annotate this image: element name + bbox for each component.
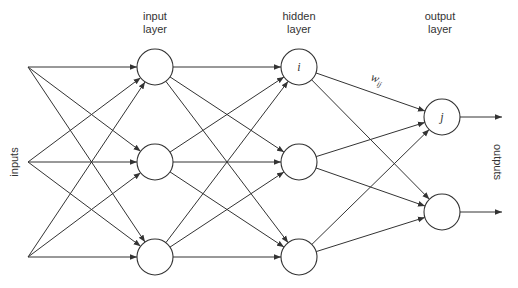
edge-source-to-input xyxy=(28,78,141,162)
hidden-node-i-label: i xyxy=(297,60,300,74)
connection-edges xyxy=(28,67,502,257)
hidden-layer-label: hidden layer xyxy=(282,10,315,35)
svg-text:layer: layer xyxy=(143,23,167,35)
neural-network-diagram: input layer hidden layer output layer in… xyxy=(0,0,518,288)
output-layer-label: output layer xyxy=(425,10,456,35)
svg-text:wij: wij xyxy=(368,70,386,90)
weight-wij-label: wij xyxy=(368,70,386,90)
edge-source-to-input xyxy=(28,67,145,242)
edge-hidden-to-output xyxy=(312,130,429,245)
svg-text:input: input xyxy=(143,10,167,22)
output-node-2 xyxy=(424,194,460,230)
edge-source-to-input xyxy=(28,67,141,151)
edge-source-to-input xyxy=(28,82,145,257)
inputs-label: inputs xyxy=(8,147,20,177)
input-node-2 xyxy=(137,144,173,180)
edge-hidden-to-output xyxy=(316,122,425,156)
edge-hidden-to-output xyxy=(316,217,425,251)
svg-text:layer: layer xyxy=(287,23,311,35)
hidden-node-2 xyxy=(281,144,317,180)
input-layer-label: input layer xyxy=(143,10,167,35)
edge-source-to-input xyxy=(28,173,141,257)
input-node-3 xyxy=(137,239,173,275)
outputs-label: outputs xyxy=(492,144,504,181)
svg-text:hidden: hidden xyxy=(282,10,315,22)
hidden-node-3 xyxy=(281,239,317,275)
svg-text:layer: layer xyxy=(428,23,452,35)
input-node-1 xyxy=(137,49,173,85)
edge-source-to-input xyxy=(28,162,141,246)
svg-text:output: output xyxy=(425,10,456,22)
